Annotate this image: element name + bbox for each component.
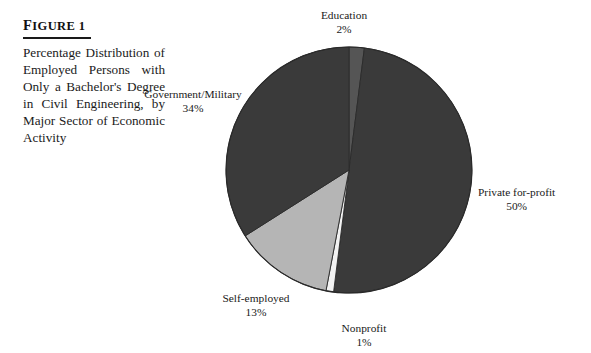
slice-label-self-employed: Self-employed 13% <box>222 292 289 320</box>
slice-label-education: Education 2% <box>321 9 367 37</box>
figure-container: FIGURE 1 Percentage Distribution of Empl… <box>0 0 591 353</box>
slice-label-government-military: Government/Military 34% <box>144 88 241 116</box>
slice-label-private-for-profit-value: 50% <box>478 200 555 214</box>
slice-label-education-value: 2% <box>321 23 367 37</box>
slice-label-self-employed-name: Self-employed <box>222 292 289 306</box>
slice-label-government-military-value: 34% <box>144 102 241 116</box>
slice-label-government-military-name: Government/Military <box>144 88 241 102</box>
slice-label-self-employed-value: 13% <box>222 306 289 320</box>
slice-label-nonprofit-name: Nonprofit <box>342 322 387 336</box>
pie-slice-group <box>226 47 472 293</box>
slice-label-nonprofit-value: 1% <box>342 336 387 350</box>
slice-label-private-for-profit-name: Private for-profit <box>478 186 555 200</box>
slice-label-private-for-profit: Private for-profit 50% <box>478 186 555 214</box>
pie-chart-svg <box>0 0 591 353</box>
pie-chart: Education 2% Government/Military 34% Pri… <box>0 0 591 353</box>
slice-label-education-name: Education <box>321 9 367 23</box>
slice-label-nonprofit: Nonprofit 1% <box>342 322 387 350</box>
